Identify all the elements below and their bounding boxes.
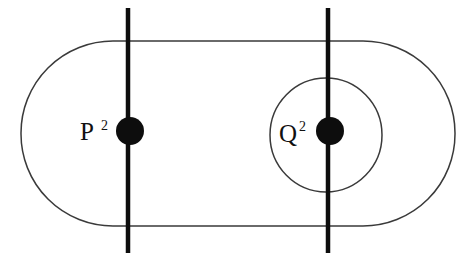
node-p-superscript: 2: [101, 118, 108, 133]
node-q-superscript: 2: [299, 119, 306, 134]
node-p-dot: [116, 117, 144, 145]
node-q-dot: [316, 117, 344, 145]
node-p-label: P: [80, 118, 94, 145]
node-q-label: Q: [279, 120, 297, 147]
diagram-svg: P 2 Q 2: [0, 0, 476, 266]
figure-canvas: P 2 Q 2: [0, 0, 476, 266]
